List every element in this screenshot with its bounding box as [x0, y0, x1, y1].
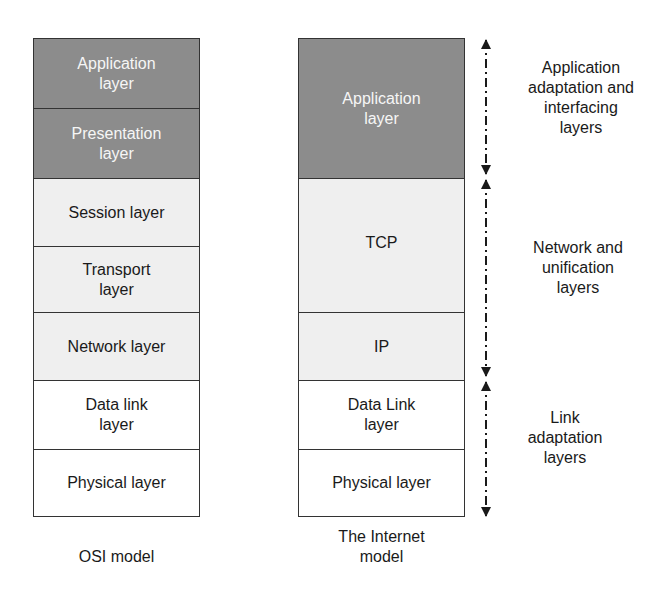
application-group-label: Application adaptation and interfacing l…	[500, 58, 662, 138]
network-group-label: Network and unification layers	[500, 238, 656, 298]
link-group-label: Link adaptation layers	[500, 408, 630, 468]
